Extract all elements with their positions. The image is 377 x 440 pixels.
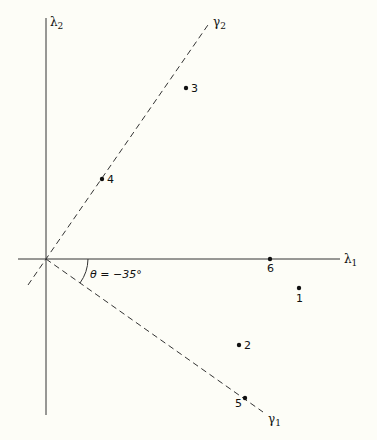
data-point-1: 1 — [296, 286, 303, 305]
point-label: 2 — [244, 339, 251, 352]
point-marker — [184, 86, 188, 90]
angle-label: θ = −35° — [90, 268, 142, 281]
data-point-4: 4 — [100, 173, 114, 186]
data-point-6: 6 — [267, 257, 274, 275]
point-label: 3 — [191, 82, 198, 95]
point-marker — [237, 343, 241, 347]
gamma2-label: γ2 — [213, 15, 226, 31]
data-point-2: 2 — [237, 339, 251, 352]
diagram-canvas: λ2 λ1 γ2 γ1 θ = −35° 1 2 3 4 5 6 — [0, 0, 377, 440]
gamma2-axis — [28, 22, 210, 285]
lambda1-label: λ1 — [344, 252, 357, 268]
point-label: 1 — [296, 292, 303, 305]
point-label: 5 — [235, 397, 242, 410]
point-marker — [268, 257, 272, 261]
point-label: 4 — [107, 173, 114, 186]
point-marker — [100, 177, 104, 181]
data-point-5: 5 — [235, 396, 247, 410]
point-label: 6 — [267, 262, 274, 275]
lambda2-label: λ2 — [50, 15, 63, 31]
gamma1-axis — [46, 259, 263, 412]
point-marker — [297, 286, 301, 290]
data-point-3: 3 — [184, 82, 198, 95]
point-marker — [243, 396, 247, 400]
gamma1-label: γ1 — [268, 412, 281, 428]
angle-arc — [80, 259, 88, 283]
